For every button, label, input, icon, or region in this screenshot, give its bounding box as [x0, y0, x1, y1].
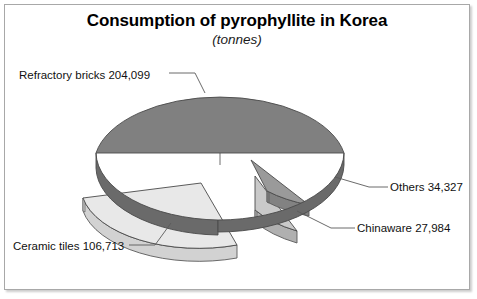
pie-slice-others[interactable]	[251, 160, 309, 216]
slice-label-others: Others 34,327	[390, 181, 463, 194]
pie-slice-others-edge-wall	[267, 191, 269, 203]
pie-slice-refractory-bricks-side-right	[218, 153, 344, 232]
slice-label-ceramic-tiles: Ceramic tiles 106,713	[13, 240, 124, 253]
pie-slice-others-side	[267, 191, 309, 216]
pie-slice-others-top	[251, 160, 309, 205]
pie-slice-refractory-bricks[interactable]	[96, 97, 344, 235]
slice-label-refractory-bricks: Refractory bricks 204,099	[19, 69, 150, 82]
pie-slice-refractory-bricks-top	[96, 97, 344, 153]
pie-slice-chinaware-top	[255, 176, 297, 231]
pie-slice-chinaware[interactable]	[255, 176, 297, 243]
pie-slice-chinaware-edge-wall	[255, 210, 257, 223]
title-block: Consumption of pyrophyllite in Korea (to…	[5, 11, 469, 48]
leader-line-chinaware	[297, 211, 355, 228]
pie-slice-ceramic-tiles-top	[83, 183, 237, 248]
chart-title: Consumption of pyrophyllite in Korea	[5, 11, 469, 31]
leader-line-others	[335, 177, 388, 187]
leader-lines	[129, 73, 388, 245]
chart-subtitle: (tonnes)	[5, 32, 469, 48]
pie-slice-chinaware-side	[255, 210, 297, 243]
slice-label-chinaware: Chinaware 27,984	[357, 222, 450, 235]
pie-slice-refractory-bricks-side	[96, 153, 218, 235]
leader-line-ceramic	[129, 223, 171, 245]
chart-frame: Consumption of pyrophyllite in Korea (to…	[4, 4, 470, 290]
leader-line-refractory	[169, 73, 205, 93]
pie-slice-ceramic-tiles-edge-wall	[83, 198, 85, 212]
